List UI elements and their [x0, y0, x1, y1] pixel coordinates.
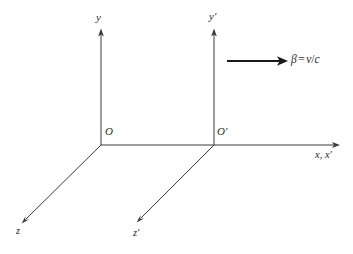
- origin-label: O: [105, 126, 113, 137]
- y-prime-axis-label: y′: [209, 11, 216, 22]
- z-axis-line: [26, 145, 102, 220]
- beta-symbol: β: [291, 53, 297, 65]
- frame-unprimed: [22, 29, 104, 224]
- z-prime-axis-line: [141, 145, 215, 219]
- shared-x-axis: [101, 142, 340, 148]
- z-prime-axis-label: z′: [133, 228, 139, 239]
- diagram-canvas: [0, 0, 353, 254]
- relativity-frames-figure: y y′ O O′ x, x′ z z′ β=v/c: [0, 0, 353, 254]
- y-axis-label: y: [96, 12, 101, 23]
- velocity-arrow: [227, 56, 288, 66]
- velocity-label: β=v/c: [291, 54, 320, 66]
- z-axis-label: z: [16, 226, 20, 237]
- frame-primed: [137, 29, 217, 223]
- x-axes-label: x, x′: [315, 150, 332, 161]
- velocity-denominator: c: [315, 53, 320, 65]
- origin-prime-label: O′: [217, 126, 227, 137]
- equals-sign: =: [297, 53, 307, 65]
